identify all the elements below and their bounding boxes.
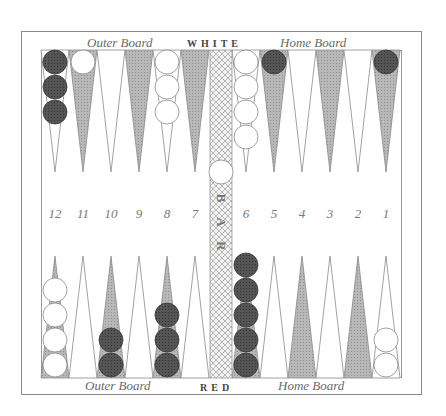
red-checker[interactable] [99, 353, 123, 377]
white-checker[interactable] [71, 50, 95, 74]
white-checker[interactable] [155, 75, 179, 99]
red-checker[interactable] [374, 50, 398, 74]
point-number-1: 1 [376, 206, 396, 222]
red-checker[interactable] [234, 353, 258, 377]
white-checker[interactable] [43, 328, 67, 352]
white-checker[interactable] [43, 303, 67, 327]
bottom-player-label: RED [200, 382, 233, 393]
bar-label: BAR [210, 186, 232, 258]
point-number-8: 8 [157, 206, 177, 222]
red-checker[interactable] [234, 303, 258, 327]
point-top-3[interactable] [316, 50, 344, 172]
white-checker[interactable] [209, 160, 233, 184]
point-bottom-2[interactable] [344, 256, 372, 378]
red-checker[interactable] [262, 50, 286, 74]
point-bottom-11[interactable] [69, 256, 97, 378]
white-checker[interactable] [234, 75, 258, 99]
point-top-4[interactable] [288, 50, 316, 172]
top-home-board-label: Home Board [280, 35, 346, 51]
point-top-10[interactable] [97, 50, 125, 172]
point-number-3: 3 [320, 206, 340, 222]
white-checker[interactable] [155, 50, 179, 74]
point-number-4: 4 [292, 206, 312, 222]
point-bottom-5[interactable] [260, 256, 288, 378]
white-checker[interactable] [43, 278, 67, 302]
white-checker[interactable] [374, 328, 398, 352]
red-checker[interactable] [43, 75, 67, 99]
point-top-2[interactable] [344, 50, 372, 172]
point-number-5: 5 [264, 206, 284, 222]
bar-letter: B [209, 187, 233, 209]
white-checker[interactable] [43, 353, 67, 377]
bottom-home-board-label: Home Board [278, 378, 344, 394]
top-outer-board-label: Outer Board [87, 35, 153, 51]
red-checker[interactable] [99, 328, 123, 352]
red-checker[interactable] [155, 353, 179, 377]
point-number-12: 12 [45, 206, 65, 222]
point-bottom-7[interactable] [181, 256, 209, 378]
red-checker[interactable] [234, 253, 258, 277]
white-checker[interactable] [234, 50, 258, 74]
white-checker[interactable] [374, 353, 398, 377]
white-checker[interactable] [155, 100, 179, 124]
point-top-7[interactable] [181, 50, 209, 172]
point-number-6: 6 [236, 206, 256, 222]
red-checker[interactable] [43, 100, 67, 124]
point-number-2: 2 [348, 206, 368, 222]
point-top-9[interactable] [125, 50, 153, 172]
bar-letter: R [209, 235, 233, 257]
red-checker[interactable] [155, 303, 179, 327]
point-number-11: 11 [73, 206, 93, 222]
white-checker[interactable] [234, 100, 258, 124]
point-number-9: 9 [129, 206, 149, 222]
top-player-label: WHITE [187, 38, 242, 49]
red-checker[interactable] [155, 328, 179, 352]
red-checker[interactable] [234, 278, 258, 302]
bottom-outer-board-label: Outer Board [85, 378, 151, 394]
point-bottom-4[interactable] [288, 256, 316, 378]
point-bottom-3[interactable] [316, 256, 344, 378]
point-number-10: 10 [101, 206, 121, 222]
bar-letter: A [209, 211, 233, 233]
red-checker[interactable] [234, 328, 258, 352]
point-bottom-9[interactable] [125, 256, 153, 378]
red-checker[interactable] [43, 50, 67, 74]
white-checker[interactable] [234, 125, 258, 149]
point-number-7: 7 [185, 206, 205, 222]
